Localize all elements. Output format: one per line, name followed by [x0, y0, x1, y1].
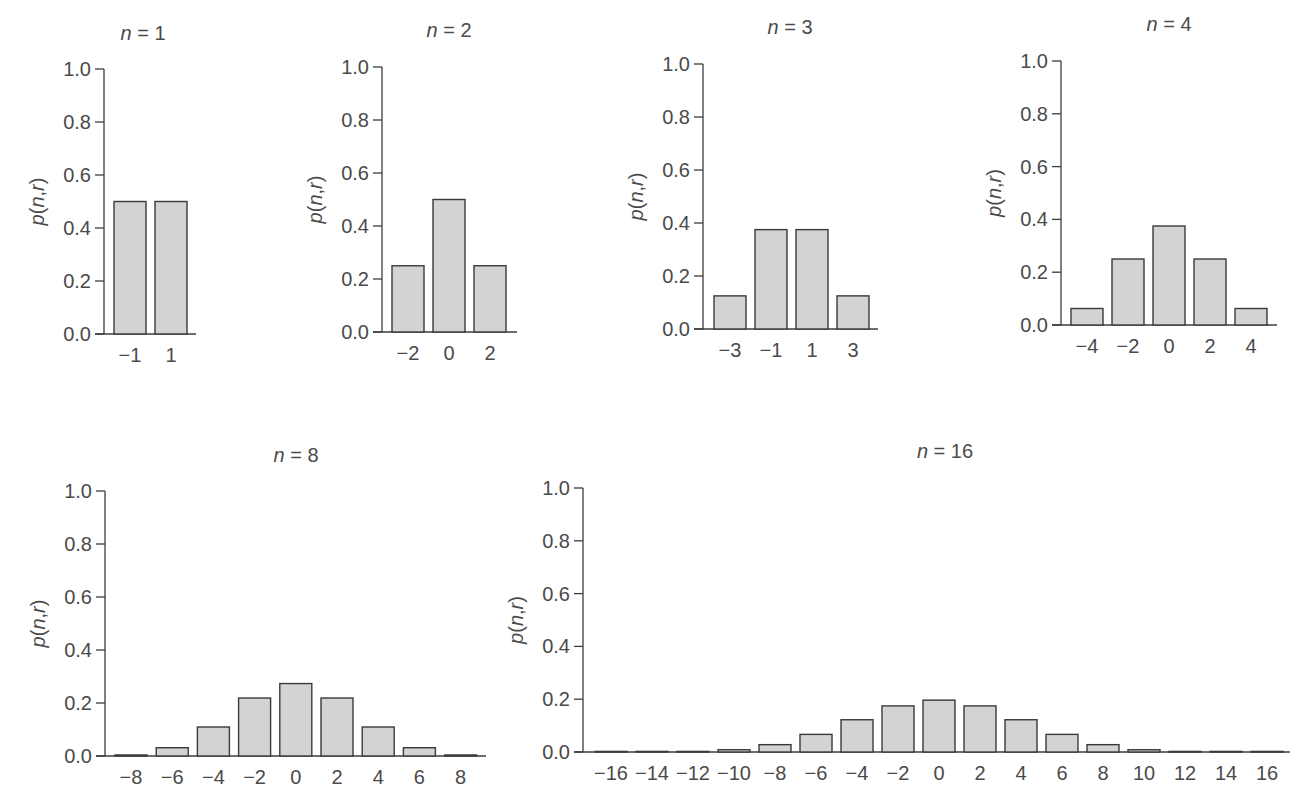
y-tick-label: 0.8: [341, 109, 369, 131]
x-tick-label: 4: [1015, 762, 1026, 784]
bar-r-neg6: [156, 748, 188, 756]
y-tick-label: 0.2: [542, 688, 570, 710]
y-tick-label: 0.6: [63, 164, 91, 186]
y-axis-label: p(n,r): [983, 169, 1005, 218]
subplot-n16: n = 160.00.20.40.60.81.0p(n,r)−16−14−12−…: [505, 440, 1290, 784]
y-tick-label: 0.6: [64, 586, 92, 608]
x-tick-label: 0: [290, 766, 301, 788]
y-tick-label: 0.2: [341, 268, 369, 290]
y-tick-label: 0.0: [63, 323, 91, 345]
subplot-title: n = 8: [273, 444, 318, 466]
bar-r-2: [1194, 259, 1226, 325]
y-tick-label: 0.4: [64, 639, 92, 661]
x-tick-label: −8: [120, 766, 143, 788]
x-tick-label: 2: [974, 762, 985, 784]
bar-r-neg2: [392, 266, 424, 332]
x-tick-label: −8: [764, 762, 787, 784]
y-tick-label: 0.2: [63, 270, 91, 292]
y-tick-label: 0.8: [64, 533, 92, 555]
bar-r-neg4: [197, 727, 229, 756]
bar-r-3: [837, 296, 869, 329]
y-tick-label: 0.4: [542, 635, 570, 657]
x-tick-label: 12: [1174, 762, 1196, 784]
y-tick-label: 1.0: [662, 53, 690, 75]
x-tick-label: −3: [719, 339, 742, 361]
bar-r-neg1: [755, 230, 787, 329]
x-tick-label: 0: [1163, 335, 1174, 357]
y-tick-label: 1.0: [542, 477, 570, 499]
bar-r-4: [362, 727, 394, 756]
y-tick-label: 0.4: [662, 212, 690, 234]
x-tick-label: −2: [243, 766, 266, 788]
bar-r-8: [445, 755, 477, 756]
bar-r-neg8: [115, 755, 147, 756]
bar-r-0: [280, 684, 312, 756]
y-tick-label: 0.8: [63, 111, 91, 133]
bar-r-neg2: [882, 706, 914, 752]
x-tick-label: 14: [1215, 762, 1237, 784]
x-tick-label: −2: [887, 762, 910, 784]
y-tick-label: 0.8: [662, 106, 690, 128]
bar-r-16: [1251, 751, 1283, 752]
x-tick-label: 1: [165, 344, 176, 366]
bar-r-8: [1087, 745, 1119, 752]
y-tick-label: 0.6: [542, 583, 570, 605]
x-tick-label: −10: [717, 762, 751, 784]
x-tick-label: −14: [635, 762, 669, 784]
bar-r-6: [403, 748, 435, 756]
x-tick-label: 2: [1204, 335, 1215, 357]
x-tick-label: −12: [676, 762, 710, 784]
bar-r-1: [796, 230, 828, 329]
subplot-title: n = 1: [120, 22, 165, 44]
bar-r-12: [1169, 751, 1201, 752]
x-tick-label: 6: [1056, 762, 1067, 784]
subplot-title: n = 4: [1146, 13, 1191, 35]
y-tick-label: 0.0: [341, 321, 369, 343]
bar-r-neg6: [800, 734, 832, 752]
subplot-n4: n = 40.00.20.40.60.81.0p(n,r)−4−2024: [983, 13, 1277, 357]
x-tick-label: −16: [594, 762, 628, 784]
y-tick-label: 0.0: [662, 318, 690, 340]
bar-r-2: [964, 706, 996, 752]
x-tick-label: 10: [1133, 762, 1155, 784]
y-tick-label: 0.0: [542, 741, 570, 763]
x-tick-label: 16: [1256, 762, 1278, 784]
y-axis-label: p(n,r): [304, 176, 326, 225]
x-tick-label: −1: [760, 339, 783, 361]
bar-r-0: [923, 700, 955, 752]
x-tick-label: −2: [1117, 335, 1140, 357]
bar-r-neg3: [714, 296, 746, 329]
subplot-n2: n = 20.00.20.40.60.81.0p(n,r)−202: [304, 19, 517, 364]
y-tick-label: 0.2: [662, 265, 690, 287]
x-tick-label: 0: [443, 342, 454, 364]
x-tick-label: 2: [331, 766, 342, 788]
bar-r-1: [155, 202, 187, 335]
y-tick-label: 0.4: [341, 215, 369, 237]
bar-r-2: [474, 266, 506, 332]
y-tick-label: 0.6: [662, 159, 690, 181]
subplot-n3: n = 30.00.20.40.60.81.0p(n,r)−3−113: [625, 16, 878, 361]
y-tick-label: 0.2: [1020, 261, 1048, 283]
chart-canvas: n = 10.00.20.40.60.81.0p(n,r)−11n = 20.0…: [0, 0, 1302, 805]
y-tick-label: 0.2: [64, 692, 92, 714]
bar-r-neg4: [841, 720, 873, 752]
bar-r-neg12: [677, 751, 709, 752]
y-tick-label: 1.0: [341, 56, 369, 78]
y-tick-label: 0.4: [63, 217, 91, 239]
bar-r-10: [1128, 750, 1160, 752]
bar-r-2: [321, 698, 353, 756]
y-tick-label: 0.6: [1020, 156, 1048, 178]
y-tick-label: 1.0: [1020, 50, 1048, 72]
x-tick-label: −2: [397, 342, 420, 364]
bar-r-0: [1153, 226, 1185, 325]
y-tick-label: 0.8: [542, 530, 570, 552]
bar-r-neg4: [1071, 309, 1103, 326]
bar-r-14: [1210, 751, 1242, 752]
y-axis-label: p(n,r): [625, 173, 647, 222]
bar-r-4: [1235, 309, 1267, 326]
bar-r-neg2: [1112, 259, 1144, 325]
bar-r-neg2: [239, 698, 271, 756]
subplot-n8: n = 80.00.20.40.60.81.0p(n,r)−8−6−4−2024…: [27, 444, 486, 788]
x-tick-label: 2: [484, 342, 495, 364]
bar-r-neg10: [718, 750, 750, 752]
